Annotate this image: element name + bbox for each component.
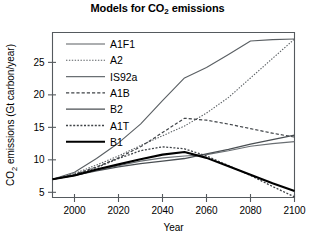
x-tick-label-2020: 2020	[107, 205, 130, 216]
x-tick-label-2060: 2060	[195, 205, 218, 216]
x-tick-label-2080: 2080	[239, 205, 262, 216]
legend-label-a1f1: A1F1	[110, 38, 135, 50]
y-tick-label-10: 10	[33, 154, 45, 165]
chart-legend: A1F1A2IS92aA1BB2A1TB1	[66, 38, 138, 148]
legend-label-b2: B2	[110, 103, 123, 115]
data-series-group	[53, 39, 295, 197]
x-tick-label-2040: 2040	[151, 205, 174, 216]
legend-label-is92a: IS92a	[110, 71, 138, 83]
legend-label-a2: A2	[110, 54, 123, 66]
chart-figure: Models for CO2 emissions 510152025200020…	[0, 0, 315, 247]
x-axis-title: Year	[163, 222, 184, 233]
y-tick-label-5: 5	[39, 187, 45, 198]
chart-plot-area: 510152025200020202040206020802100 A1F1A2…	[0, 0, 315, 247]
x-tick-label-2000: 2000	[63, 205, 86, 216]
series-line-b1	[53, 152, 295, 191]
axis-tick-labels-group: 510152025200020202040206020802100	[33, 57, 306, 216]
legend-label-a1t: A1T	[110, 120, 130, 132]
x-tick-label-2100: 2100	[283, 205, 306, 216]
y-tick-label-25: 25	[33, 57, 45, 68]
legend-label-b1: B1	[110, 136, 123, 148]
y-tick-label-15: 15	[33, 122, 45, 133]
y-tick-label-20: 20	[33, 89, 45, 100]
legend-label-a1b: A1B	[110, 87, 130, 99]
y-axis-title: CO2 emissions (Gt carbon/year)	[5, 44, 19, 186]
